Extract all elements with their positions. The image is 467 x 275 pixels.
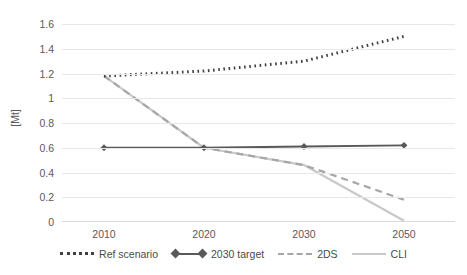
x-tick-label-2020: 2020 <box>192 228 215 240</box>
y-tick-label-0-8: 0.8 <box>4 117 54 129</box>
plot-area <box>62 24 455 222</box>
y-axis-tick-labels: 1.6 1.4 1.2 1 0.8 0.6 0.4 0.2 0 <box>0 24 58 222</box>
gridline-0-4 <box>62 173 455 174</box>
y-tick-label-0-4: 0.4 <box>4 167 54 179</box>
legend-swatch-solid-icon <box>352 248 386 260</box>
y-tick-label-0-2: 0.2 <box>4 191 54 203</box>
data-point-marker <box>301 143 308 150</box>
x-tick-label-2050: 2050 <box>392 228 415 240</box>
legend-item-2030-target[interactable]: 2030 target <box>172 248 264 260</box>
gridline-1-2 <box>62 74 455 75</box>
chart-legend: Ref scenario 2030 target 2DS CLI <box>0 248 467 260</box>
gridline-1-4 <box>62 49 455 50</box>
gridline-0-8 <box>62 123 455 124</box>
y-tick-label-1-6: 1.6 <box>4 18 54 30</box>
y-tick-label-0-6: 0.6 <box>4 142 54 154</box>
gridline-1-0 <box>62 98 455 99</box>
legend-label-ref-scenario: Ref scenario <box>99 248 158 260</box>
legend-label-2ds: 2DS <box>317 248 337 260</box>
y-tick-label-1-4: 1.4 <box>4 43 54 55</box>
legend-item-ref-scenario[interactable]: Ref scenario <box>60 248 158 260</box>
gridline-1-6 <box>62 24 455 25</box>
x-tick-label-2010: 2010 <box>92 228 115 240</box>
y-tick-label-1: 1 <box>4 92 54 104</box>
line-chart: [Mt] 1.6 1.4 1.2 1 0.8 0.6 0.4 0.2 0 201… <box>0 0 467 275</box>
series-2ds <box>104 76 404 200</box>
gridline-0-6 <box>62 148 455 149</box>
gridline-0-2 <box>62 197 455 198</box>
legend-label-cli: CLI <box>391 248 407 260</box>
legend-diamond-left-icon <box>171 249 181 259</box>
legend-item-cli[interactable]: CLI <box>352 248 407 260</box>
legend-diamond-right-icon <box>198 249 208 259</box>
legend-swatch-line-marker-icon <box>172 248 206 260</box>
series-ref-scenario <box>104 36 404 76</box>
x-axis-line <box>62 221 455 222</box>
legend-swatch-dotted-icon <box>60 248 94 260</box>
legend-label-2030-target: 2030 target <box>211 248 264 260</box>
y-tick-label-0: 0 <box>4 216 54 228</box>
x-tick-label-2030: 2030 <box>292 228 315 240</box>
legend-swatch-dashed-icon <box>278 248 312 260</box>
y-tick-label-1-2: 1.2 <box>4 68 54 80</box>
legend-item-2ds[interactable]: 2DS <box>278 248 337 260</box>
